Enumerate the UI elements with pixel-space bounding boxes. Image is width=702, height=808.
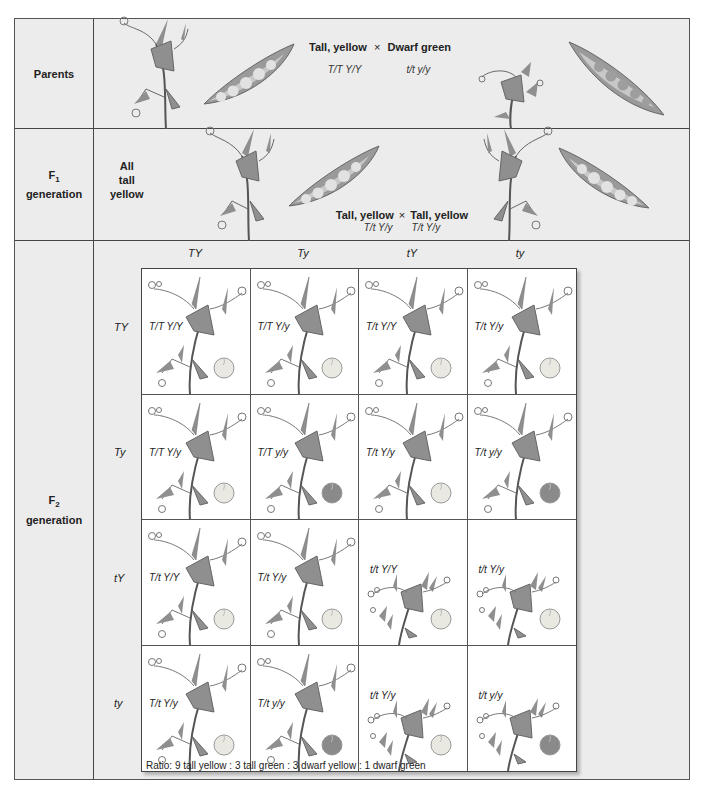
- f1-row: F1generation All tall yellow: [15, 129, 689, 241]
- gamete-header-col-1: TY: [141, 247, 249, 259]
- tall-pea-plant-icon: [116, 9, 196, 129]
- genotype-label: T/T y/y: [257, 447, 290, 458]
- f1-note-line3: yellow: [110, 188, 144, 200]
- yellow-pea-seed-icon: [320, 356, 344, 380]
- punnett-cell: T/t y/y: [251, 646, 360, 772]
- f2-label: F2generation: [15, 241, 94, 779]
- punnett-cell: T/T y/y: [251, 395, 360, 521]
- pea-pod-icon: [199, 39, 299, 109]
- cross-symbol: ×: [399, 209, 405, 221]
- punnett-cell: t/t Y/y: [468, 520, 577, 646]
- punnett-cell: T/t Y/y: [251, 520, 360, 646]
- yellow-pea-seed-icon: [538, 607, 562, 631]
- green-pea-seed-icon: [538, 733, 562, 757]
- cross-symbol: ×: [374, 41, 380, 53]
- pea-pod-icon: [564, 37, 669, 117]
- pea-pod-icon: [284, 141, 384, 211]
- yellow-pea-seed-icon: [212, 733, 236, 757]
- genotype-label: T/T Y/y: [148, 447, 182, 458]
- green-pea-seed-icon: [320, 733, 344, 757]
- genotype-label: T/t Y/Y: [365, 321, 397, 332]
- parent-genotype-left: T/T Y/Y: [328, 64, 362, 75]
- parents-label-text: Parents: [34, 67, 74, 81]
- punnett-cell: t/t y/y: [468, 646, 577, 772]
- genotype-label: t/t Y/y: [369, 690, 396, 701]
- green-pea-seed-icon: [320, 481, 344, 505]
- mendel-dihybrid-cross-figure: Parents Tall, y: [14, 18, 690, 780]
- gamete-header-col-3: tY: [358, 247, 466, 259]
- f2-label-tail: generation: [26, 514, 82, 526]
- tall-pea-plant-icon: [204, 121, 284, 241]
- yellow-pea-seed-icon: [320, 607, 344, 631]
- yellow-pea-seed-icon: [429, 733, 453, 757]
- parents-cross-text: Tall, yellow × Dwarf green T/T Y/Y t/t y…: [309, 41, 449, 75]
- genotype-label: T/t y/y: [474, 447, 503, 458]
- phenotype-ratio: Ratio: 9 tall yellow : 3 tall green : 3 …: [146, 760, 426, 771]
- punnett-square-area: TY Ty tY ty TY Ty tY ty T/T Y/Y: [94, 241, 689, 779]
- f1-label: F1generation: [15, 129, 94, 240]
- f1-cross-text: Tall, yellow × Tall, yellow T/t Y/y T/t …: [332, 209, 472, 233]
- genotype-label: T/t y/y: [257, 698, 286, 709]
- gamete-header-col-4: ty: [466, 247, 574, 259]
- punnett-cell: T/t Y/Y: [142, 520, 251, 646]
- f1-label-sub: 1: [55, 175, 59, 184]
- punnett-cell: T/t Y/y: [142, 646, 251, 772]
- gamete-header-row-2: Ty: [114, 446, 125, 458]
- genotype-label: T/t Y/y: [148, 698, 179, 709]
- punnett-cell: T/T Y/Y: [142, 269, 251, 395]
- yellow-pea-seed-icon: [429, 607, 453, 631]
- yellow-pea-seed-icon: [429, 481, 453, 505]
- pea-pod-icon: [554, 143, 654, 213]
- f2-label-sub: 2: [55, 501, 59, 510]
- parents-row: Parents Tall, y: [15, 19, 689, 129]
- punnett-cell: T/t y/y: [468, 395, 577, 521]
- dwarf-pea-plant-icon: [476, 57, 551, 129]
- genotype-label: T/T Y/Y: [148, 321, 184, 332]
- f1-note: All tall yellow: [110, 159, 144, 201]
- f1-note-line2: tall: [119, 174, 135, 186]
- yellow-pea-seed-icon: [212, 356, 236, 380]
- gamete-header-row-4: ty: [114, 697, 123, 709]
- punnett-cell: T/T Y/y: [251, 269, 360, 395]
- parent-phenotype-tall-yellow: Tall, yellow: [309, 41, 367, 53]
- punnett-cell: T/t Y/Y: [359, 269, 468, 395]
- gamete-header-col-2: Ty: [249, 247, 357, 259]
- f1-content: All tall yellow: [94, 129, 689, 240]
- f1-note-line1: All: [120, 160, 134, 172]
- parent-genotype-right: t/t y/y: [406, 64, 430, 75]
- f1-phenotype-right: Tall, yellow: [410, 209, 468, 221]
- genotype-label: T/T Y/y: [257, 321, 291, 332]
- tall-pea-plant-icon: [474, 121, 554, 241]
- gamete-header-row-1: TY: [114, 321, 128, 333]
- yellow-pea-seed-icon: [429, 356, 453, 380]
- punnett-cell: t/t Y/Y: [359, 520, 468, 646]
- genotype-label: t/t y/y: [478, 690, 504, 701]
- parents-label: Parents: [15, 19, 94, 128]
- f1-genotype-left: T/t Y/y: [364, 222, 393, 233]
- f1-phenotype-left: Tall, yellow: [336, 209, 394, 221]
- genotype-label: t/t Y/y: [478, 564, 505, 575]
- genotype-label: T/t Y/y: [365, 447, 396, 458]
- genotype-label: T/t Y/Y: [148, 572, 180, 583]
- f2-row: F2generation TY Ty tY ty TY Ty tY ty T/T…: [15, 241, 689, 779]
- f1-label-tail: generation: [26, 188, 82, 200]
- punnett-cell: t/t Y/y: [359, 646, 468, 772]
- genotype-label: T/t Y/y: [474, 321, 505, 332]
- f1-genotype-right: T/t Y/y: [412, 222, 441, 233]
- parent-phenotype-dwarf-green: Dwarf green: [387, 41, 451, 53]
- gamete-header-row-3: tY: [114, 572, 124, 584]
- punnett-square-grid: T/T Y/Y T/T Y/y T/t Y/Y: [141, 268, 577, 772]
- genotype-label: T/t Y/y: [257, 572, 288, 583]
- parents-content: Tall, yellow × Dwarf green T/T Y/Y t/t y…: [94, 19, 689, 128]
- yellow-pea-seed-icon: [212, 607, 236, 631]
- yellow-pea-seed-icon: [538, 356, 562, 380]
- punnett-cell: T/T Y/y: [142, 395, 251, 521]
- punnett-cell: T/t Y/y: [359, 395, 468, 521]
- green-pea-seed-icon: [538, 481, 562, 505]
- genotype-label: t/t Y/Y: [369, 564, 398, 575]
- punnett-cell: T/t Y/y: [468, 269, 577, 395]
- yellow-pea-seed-icon: [212, 481, 236, 505]
